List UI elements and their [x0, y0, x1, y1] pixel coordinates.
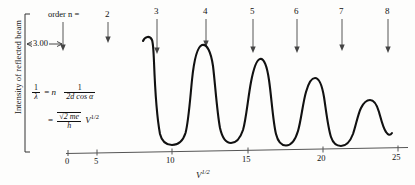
- order-arrow-label-8: 8: [385, 6, 390, 16]
- formula-voltage-exp: 1/2: [91, 113, 99, 120]
- x-axis-label-exponent: 1/2: [202, 168, 210, 175]
- x-axis-line: [66, 148, 408, 154]
- intensity-curve: [143, 37, 392, 146]
- formula-debroglie-fraction: √2 me h: [57, 112, 81, 130]
- formula-lambda-num: 1: [32, 84, 40, 92]
- x-tick-label-0: 0: [65, 156, 69, 166]
- order-label-text: order n =: [48, 9, 79, 19]
- order-arrow-order-text: [60, 22, 65, 51]
- order-arrow-label-5: 5: [250, 6, 255, 16]
- formula-equals-2: =: [48, 115, 53, 125]
- order-arrow-label-3: 3: [154, 6, 159, 16]
- order-arrow-2: [105, 22, 110, 43]
- order-arrow-3: [154, 19, 159, 54]
- figure-root: Intensity of reflected beam: [0, 0, 415, 185]
- order-arrow-7: [339, 19, 344, 51]
- x-tick-label-5: 5: [94, 156, 98, 166]
- order-arrow-label-7: 7: [339, 6, 344, 16]
- formula-debroglie-den: h: [57, 121, 81, 130]
- formula-line-1: 1 λ = n 1 2d cos α: [30, 84, 97, 101]
- order-arrow-6: [294, 19, 299, 53]
- order-arrows: [60, 19, 390, 54]
- formula-debroglie-num: √2 me: [57, 112, 81, 121]
- x-tick-label-25: 25: [392, 152, 401, 162]
- order-arrow-4: [203, 19, 208, 47]
- order-arrow-label-4: 4: [203, 6, 208, 16]
- formula-bragg-num: 1: [64, 84, 95, 92]
- order-arrow-8: [385, 19, 390, 53]
- x-tick-label-10: 10: [166, 155, 175, 165]
- order-label: order n =: [48, 9, 79, 19]
- y-axis-bracket: [25, 14, 30, 152]
- formula-equals-1: =: [44, 87, 49, 97]
- formula-n: n: [52, 87, 57, 97]
- formula-line-2: = √2 me h V1/2: [48, 112, 99, 130]
- spacing-measure-label: 3.00: [32, 38, 49, 48]
- order-arrow-5: [250, 19, 255, 53]
- x-axis-label: V1/2: [196, 168, 210, 180]
- formula-bragg-den: 2d cos α: [64, 92, 95, 101]
- x-tick-label-20: 20: [317, 153, 326, 163]
- formula-lambda-fraction: 1 λ: [32, 84, 40, 101]
- order-arrow-label-2: 2: [105, 9, 110, 19]
- formula-lambda-den: λ: [32, 92, 40, 101]
- formula-bragg-fraction: 1 2d cos α: [64, 84, 95, 101]
- order-arrow-label-6: 6: [294, 6, 299, 16]
- x-tick-label-15: 15: [242, 154, 251, 164]
